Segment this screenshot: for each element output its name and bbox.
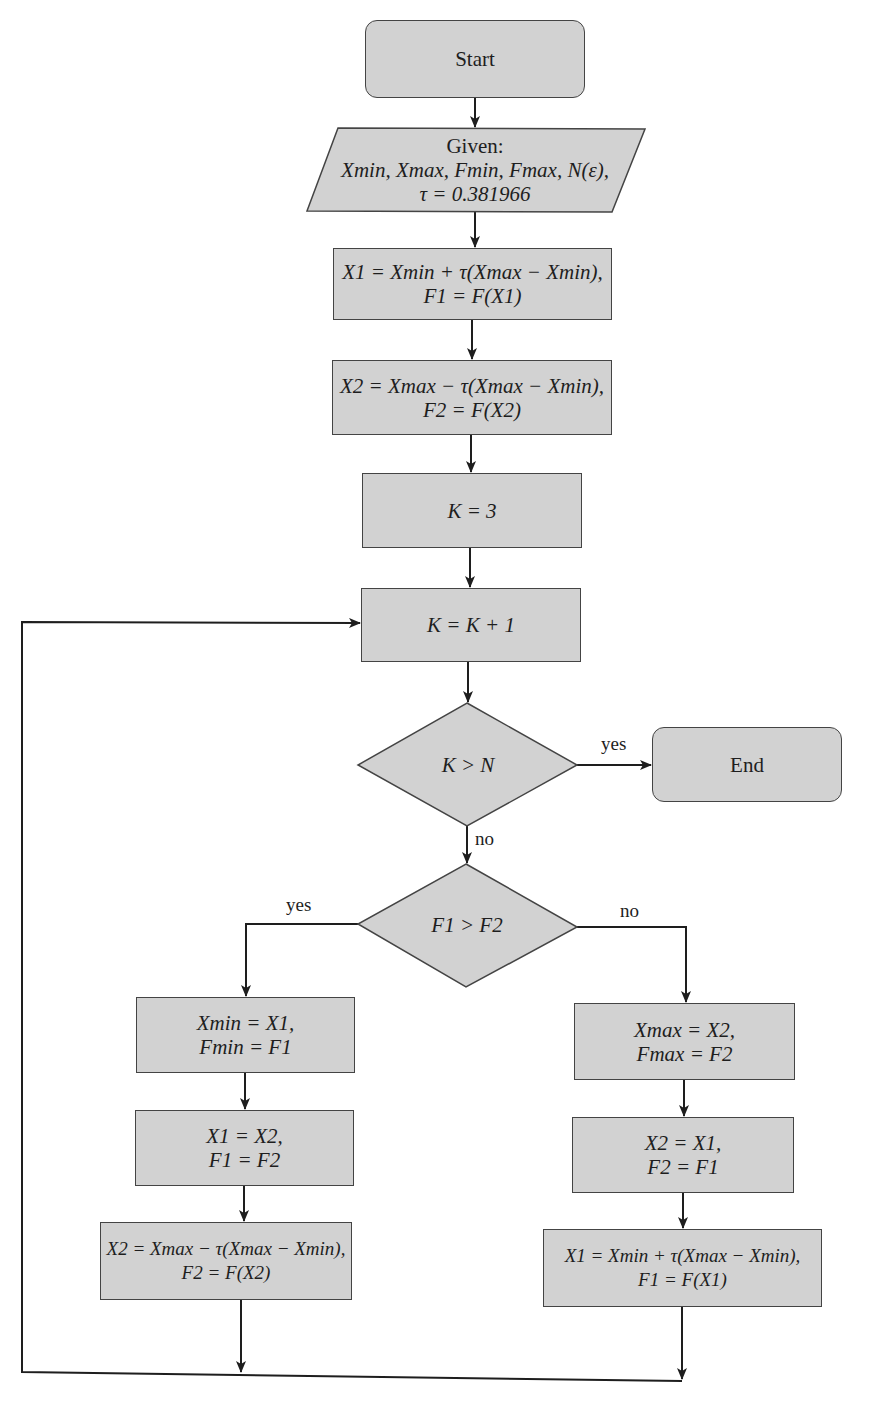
right-shift-points: X2 = X1, F2 = F1 <box>572 1117 794 1193</box>
right-new-x1: X1 = Xmin + τ(Xmax − Xmin), F1 = F(X1) <box>543 1229 822 1307</box>
right-update-max-line2: Fmax = F2 <box>637 1042 733 1066</box>
left-update-min-line1: Xmin = X1, <box>197 1011 295 1035</box>
decision-k-yes-label: yes <box>601 733 626 755</box>
right-new-x1-line2: F1 = F(X1) <box>638 1268 727 1292</box>
decision-k-no-label: no <box>475 828 494 850</box>
init-x1-process: X1 = Xmin + τ(Xmax − Xmin), F1 = F(X1) <box>333 248 612 320</box>
input-variables: Xmin, Xmax, Fmin, Fmax, N(ε), <box>341 158 609 182</box>
decision-f-label: F1 > F2 <box>431 913 502 937</box>
decision-k: K > N <box>408 750 528 780</box>
start-terminal: Start <box>365 20 585 98</box>
right-new-x1-line1: X1 = Xmin + τ(Xmax − Xmin), <box>565 1244 801 1268</box>
increment-k-label: K = K + 1 <box>427 613 515 637</box>
left-shift-line1: X1 = X2, <box>206 1124 283 1148</box>
input-block: Given: Xmin, Xmax, Fmin, Fmax, N(ε), τ =… <box>310 130 640 210</box>
left-shift-line2: F1 = F2 <box>209 1148 280 1172</box>
init-x2-line2: F2 = F(X2) <box>423 398 521 422</box>
set-k-label: K = 3 <box>447 499 496 523</box>
start-label: Start <box>455 47 495 71</box>
left-shift-points: X1 = X2, F1 = F2 <box>135 1110 354 1186</box>
end-terminal: End <box>652 727 842 802</box>
decision-f: F1 > F2 <box>407 910 527 940</box>
input-title: Given: <box>446 134 503 158</box>
left-new-x2-line2: F2 = F(X2) <box>182 1261 271 1285</box>
input-tau: τ = 0.381966 <box>420 182 531 206</box>
left-new-x2-line1: X2 = Xmax − τ(Xmax − Xmin), <box>107 1237 346 1261</box>
decision-f-no-label: no <box>620 900 639 922</box>
right-shift-line1: X2 = X1, <box>645 1131 722 1155</box>
left-new-x2: X2 = Xmax − τ(Xmax − Xmin), F2 = F(X2) <box>100 1222 352 1300</box>
decision-k-label: K > N <box>442 753 495 777</box>
left-update-min-line2: Fmin = F1 <box>199 1035 291 1059</box>
decision-f-yes-label: yes <box>286 894 311 916</box>
right-update-max: Xmax = X2, Fmax = F2 <box>574 1003 795 1080</box>
init-x1-line2: F1 = F(X1) <box>423 284 521 308</box>
init-x2-line1: X2 = Xmax − τ(Xmax − Xmin), <box>340 374 604 398</box>
right-update-max-line1: Xmax = X2, <box>634 1018 735 1042</box>
init-x1-line1: X1 = Xmin + τ(Xmax − Xmin), <box>342 260 603 284</box>
set-k-process: K = 3 <box>362 473 582 548</box>
connectors <box>0 0 893 1405</box>
end-label: End <box>730 753 764 777</box>
increment-k-process: K = K + 1 <box>361 588 581 662</box>
left-update-min: Xmin = X1, Fmin = F1 <box>136 997 355 1073</box>
init-x2-process: X2 = Xmax − τ(Xmax − Xmin), F2 = F(X2) <box>332 360 612 435</box>
right-shift-line2: F2 = F1 <box>647 1155 718 1179</box>
